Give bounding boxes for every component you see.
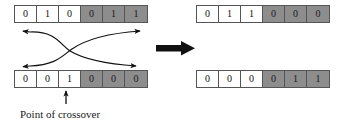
- gene-cell: 0: [219, 71, 241, 87]
- gene-cell: 0: [263, 71, 285, 87]
- gene-cell: 1: [37, 6, 59, 22]
- gene-cell: 0: [15, 6, 37, 22]
- chromosome-parent-1: 0 1 0 0 1 1: [14, 5, 148, 23]
- chromosome-offspring-2: 0 0 0 0 1 1: [196, 70, 330, 88]
- gene-cell: 0: [241, 71, 263, 87]
- gene-cell: 0: [125, 71, 147, 87]
- gene-cell: 1: [307, 71, 329, 87]
- gene-cell: 1: [241, 6, 263, 22]
- transform-arrow-icon: [156, 41, 195, 56]
- gene-cell: 0: [197, 71, 219, 87]
- gene-cell: 0: [263, 6, 285, 22]
- crossing-arrow-bottom-to-top: [23, 31, 140, 67]
- gene-cell: 1: [59, 71, 81, 87]
- chromosome-offspring-1: 0 1 1 0 0 0: [196, 5, 330, 23]
- gene-cell: 0: [103, 71, 125, 87]
- gene-cell: 0: [197, 6, 219, 22]
- gene-cell: 1: [219, 6, 241, 22]
- gene-cell: 1: [103, 6, 125, 22]
- gene-cell: 1: [285, 71, 307, 87]
- chromosome-parent-2: 0 0 1 0 0 0: [14, 70, 148, 88]
- gene-cell: 0: [81, 6, 103, 22]
- crossover-diagram: 0 1 0 0 1 1 0 0 1 0 0 0 0 1 1 0 0 0 0 0 …: [0, 0, 344, 130]
- gene-cell: 0: [81, 71, 103, 87]
- gene-cell: 1: [125, 6, 147, 22]
- crossover-caption: Point of crossover: [20, 108, 100, 120]
- gene-cell: 0: [37, 71, 59, 87]
- gene-cell: 0: [59, 6, 81, 22]
- crossing-arrow-top-to-bottom: [23, 31, 136, 66]
- gene-cell: 0: [307, 6, 329, 22]
- gene-cell: 0: [15, 71, 37, 87]
- gene-cell: 0: [285, 6, 307, 22]
